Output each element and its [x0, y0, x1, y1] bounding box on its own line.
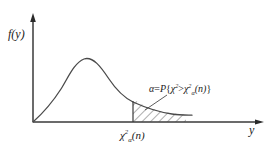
y-axis: [30, 13, 36, 122]
x-axis-arrowhead: [255, 119, 264, 124]
annotation-leader-line: [145, 95, 167, 110]
close-brace: }: [206, 83, 211, 94]
y-axis-label-text: f(y): [8, 27, 25, 41]
chi-superscript: 2: [125, 128, 128, 135]
chi-square-distribution-figure: f(y) y χ2α(n) α=P{χ2>χ2α(n)}: [0, 0, 273, 153]
chi-argument-rhs: (n): [195, 83, 207, 94]
y-axis-label: f(y): [8, 28, 25, 40]
alpha-probability-formula: α=P{χ2>χ2α(n)}: [149, 83, 211, 97]
chi-argument: (n): [132, 129, 145, 141]
critical-value-tick-label: χ2α(n): [120, 129, 145, 144]
chi-superscript-rhs: 2: [188, 82, 191, 89]
x-axis-label-text: y: [249, 123, 254, 137]
y-axis-arrowhead: [30, 13, 36, 22]
x-axis-label: y: [249, 124, 254, 136]
